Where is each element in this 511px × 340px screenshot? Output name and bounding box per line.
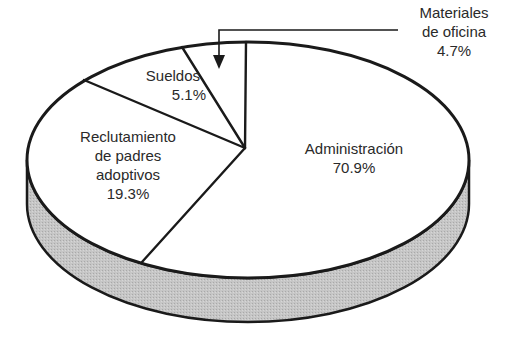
label-administracion-pct: 70.9% <box>284 158 424 177</box>
label-materiales-line1: Materiales <box>404 3 504 22</box>
label-reclutamiento: Reclutamiento de padres adoptivos 19.3% <box>58 127 198 203</box>
label-sueldos: Sueldos 5.1% <box>118 66 218 104</box>
label-reclutamiento-line2: de padres <box>58 146 198 165</box>
label-administracion-line1: Administración <box>284 139 424 158</box>
label-sueldos-line1: Sueldos <box>118 66 218 85</box>
label-reclutamiento-pct: 19.3% <box>58 184 198 203</box>
label-materiales-line2: de oficina <box>404 22 504 41</box>
label-materiales-pct: 4.7% <box>404 41 504 60</box>
divider-admin-materiales <box>245 42 246 148</box>
label-materiales: Materiales de oficina 4.7% <box>404 3 504 60</box>
label-reclutamiento-line1: Reclutamiento <box>58 127 198 146</box>
label-sueldos-pct: 5.1% <box>118 85 218 104</box>
label-reclutamiento-line3: adoptivos <box>58 165 198 184</box>
label-administracion: Administración 70.9% <box>284 139 424 177</box>
